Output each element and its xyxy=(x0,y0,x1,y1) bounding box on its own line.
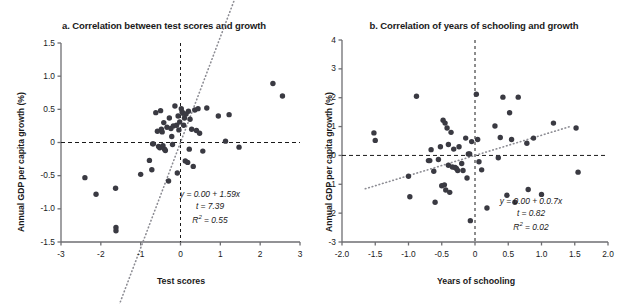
data-point xyxy=(500,94,505,99)
panel-b-ytick: 1 xyxy=(296,121,336,131)
data-point xyxy=(153,110,158,115)
data-point xyxy=(427,158,432,163)
data-point xyxy=(456,144,461,149)
data-point xyxy=(448,130,453,135)
panel-a-tstat: t = 7.39 xyxy=(130,201,290,213)
data-point xyxy=(479,167,484,172)
data-point xyxy=(189,127,194,132)
panel-b-rsquared: R2 = 0.02 xyxy=(441,219,621,233)
data-point xyxy=(280,93,285,98)
panel-a-ytick: -0.5 xyxy=(15,170,55,180)
data-point xyxy=(138,172,143,177)
data-point xyxy=(200,148,205,153)
panel-a-xtick: -1 xyxy=(121,249,161,259)
panel-a-xtick: -2 xyxy=(81,249,121,259)
panel-b-xtick: 2.0 xyxy=(588,249,628,259)
panel-a-ytick: 0 xyxy=(15,137,55,147)
data-point xyxy=(459,161,464,166)
panel-a-xtick: 3 xyxy=(280,249,320,259)
data-point xyxy=(167,115,172,120)
data-point xyxy=(507,110,512,115)
data-point xyxy=(464,175,469,180)
panel-b-ytick: 0 xyxy=(296,150,336,160)
panel-a-ytick: -1.5 xyxy=(15,237,55,247)
data-point xyxy=(82,175,87,180)
data-point xyxy=(444,125,449,130)
data-point xyxy=(467,151,472,156)
data-point xyxy=(176,127,181,132)
chart-panel-b: b. Correlation of years of schooling and… xyxy=(316,0,632,304)
chart-panel-a: a. Correlation between test scores and g… xyxy=(0,0,316,304)
data-point xyxy=(113,186,118,191)
data-point xyxy=(163,148,168,153)
figure-container: a. Correlation between test scores and g… xyxy=(0,0,632,304)
data-point xyxy=(498,135,503,140)
panel-b-ytick: 2 xyxy=(296,92,336,102)
data-point xyxy=(573,125,578,130)
data-point xyxy=(113,228,118,233)
data-point xyxy=(158,108,163,113)
data-point xyxy=(172,103,177,108)
data-point xyxy=(223,138,228,143)
data-point xyxy=(442,120,447,125)
panel-b-equation: y = 0.00 + 0.0.7x xyxy=(441,196,621,208)
data-point xyxy=(147,158,152,163)
data-point xyxy=(186,109,191,114)
data-point xyxy=(524,141,529,146)
data-point xyxy=(475,137,480,142)
data-point xyxy=(149,167,154,172)
data-point xyxy=(575,169,580,174)
data-point xyxy=(451,146,456,151)
data-point xyxy=(516,94,521,99)
data-point xyxy=(447,190,452,195)
data-point xyxy=(226,112,231,117)
data-point xyxy=(551,120,556,125)
data-point xyxy=(496,155,501,160)
data-point xyxy=(371,130,376,135)
data-point xyxy=(195,106,200,111)
data-point xyxy=(373,138,378,143)
data-point xyxy=(151,141,156,146)
data-point xyxy=(166,178,171,183)
data-point xyxy=(509,137,514,142)
data-point xyxy=(187,117,192,122)
data-point xyxy=(93,192,98,197)
data-point xyxy=(197,131,202,136)
data-point xyxy=(531,135,536,140)
data-point xyxy=(187,146,192,151)
data-point xyxy=(204,105,209,110)
panel-a-ytick: 1.0 xyxy=(15,71,55,81)
data-point xyxy=(181,123,186,128)
panel-a-rsq-value: = 0.55 xyxy=(202,215,228,225)
data-point xyxy=(236,144,241,149)
panel-a-xtick: -3 xyxy=(41,249,81,259)
data-point xyxy=(436,157,441,162)
data-point xyxy=(446,142,451,147)
panel-b-rsq-value: = 0.02 xyxy=(523,222,549,232)
panel-a-xtick: 1 xyxy=(200,249,240,259)
data-point xyxy=(170,142,175,147)
data-point xyxy=(474,92,479,97)
data-point xyxy=(414,94,419,99)
data-point xyxy=(492,123,497,128)
data-point xyxy=(407,194,412,199)
panel-a-annotation: y = 0.00 + 1.59x t = 7.39 R2 = 0.55 xyxy=(130,189,290,226)
data-point xyxy=(406,174,411,179)
data-point xyxy=(455,168,460,173)
data-point xyxy=(159,129,164,134)
data-point xyxy=(526,187,531,192)
panel-b-tstat: t = 0.82 xyxy=(441,208,621,220)
panel-a-rsquared: R2 = 0.55 xyxy=(130,212,290,226)
panel-b-ytick: 4 xyxy=(296,35,336,45)
panel-a-ytick: 0.5 xyxy=(15,104,55,114)
data-point xyxy=(469,139,474,144)
panel-a-xtick: 2 xyxy=(240,249,280,259)
data-point xyxy=(270,81,275,86)
panel-b-annotation: y = 0.00 + 0.0.7x t = 0.82 R2 = 0.02 xyxy=(441,196,621,233)
panel-b-ytick: -3 xyxy=(296,237,336,247)
data-point xyxy=(216,113,221,118)
data-point xyxy=(463,135,468,140)
data-point xyxy=(428,147,433,152)
data-point xyxy=(476,159,481,164)
data-point xyxy=(431,169,436,174)
